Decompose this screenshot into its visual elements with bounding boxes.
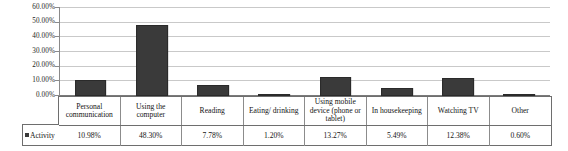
table-data-cell: 12.38% <box>428 126 490 146</box>
table-data-cell: 13.27% <box>305 126 367 146</box>
bar-slot <box>60 7 121 96</box>
bar-slot <box>121 7 182 96</box>
bar-slot <box>183 7 244 96</box>
y-axis-tick <box>55 80 60 81</box>
table-data-cell: 5.49% <box>367 126 429 146</box>
y-axis-tick-label: 50.00% <box>3 17 55 25</box>
table-data-cell: 48.30% <box>121 126 183 146</box>
table-header-cell: Eating/ drinking <box>244 97 306 125</box>
table-data-cell: 7.78% <box>182 126 244 146</box>
bar-slot <box>305 7 366 96</box>
y-axis-tick <box>55 95 60 96</box>
table-header-cell: Reading <box>182 97 244 125</box>
legend-cell: Activity <box>22 124 59 146</box>
y-axis-tick-label: 10.00% <box>3 76 55 84</box>
bar <box>197 85 229 96</box>
bar-slot <box>489 7 550 96</box>
bar <box>75 80 107 96</box>
data-table: Personal communicationUsing the computer… <box>58 96 552 146</box>
table-data-cell: 1.20% <box>244 126 306 146</box>
table-header-cell: Using mobile device (phone or tablet) <box>305 97 367 125</box>
table-header-cell: Using the computer <box>121 97 183 125</box>
y-axis-tick <box>55 7 60 8</box>
table-header-cell: Other <box>490 97 552 125</box>
table-data-cell: 10.98% <box>59 126 121 146</box>
table-header-cell: Personal communication <box>59 97 121 125</box>
table-header-cell: In housekeeping <box>367 97 429 125</box>
table-header-row: Personal communicationUsing the computer… <box>59 97 551 125</box>
legend-label: Activity <box>30 131 55 140</box>
chart-figure: 60.00%50.00%40.00%30.00%20.00%10.00%0.00… <box>0 0 568 151</box>
y-axis-tick <box>55 22 60 23</box>
bar-slot <box>244 7 305 96</box>
y-axis-tick <box>55 36 60 37</box>
table-data-cell: 0.60% <box>490 126 552 146</box>
y-axis-tick <box>55 66 60 67</box>
y-axis-tick-label: 30.00% <box>3 47 55 55</box>
y-axis-tick-label: 0.00% <box>3 91 55 99</box>
table-header-cell: Watching TV <box>428 97 490 125</box>
legend-marker-icon <box>25 133 29 137</box>
y-axis-tick-label: 40.00% <box>3 32 55 40</box>
bar <box>381 88 413 96</box>
bar <box>136 25 168 96</box>
bar <box>442 78 474 96</box>
bar-slot <box>366 7 427 96</box>
bars-group <box>60 7 550 96</box>
bar-slot <box>428 7 489 96</box>
y-axis-tick-label: 60.00% <box>3 3 55 11</box>
y-axis-tick-label: 20.00% <box>3 61 55 69</box>
y-axis-tick <box>55 51 60 52</box>
bar <box>320 77 352 96</box>
table-data-row: 10.98%48.30%7.78%1.20%13.27%5.49%12.38%0… <box>59 125 551 146</box>
